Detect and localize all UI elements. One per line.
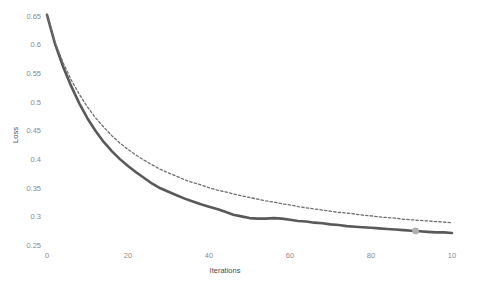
y-axis-tick-labels: 0.250.30.350.40.450.50.550.60.65 (26, 12, 41, 250)
y-tick-label: 0.65 (26, 12, 41, 21)
series-line-validation-loss (47, 15, 452, 223)
y-tick-label: 0.3 (31, 212, 41, 221)
x-tick-label: 0 (45, 251, 49, 260)
series-line-training-loss (47, 15, 452, 233)
selected-point-marker[interactable] (412, 228, 419, 235)
y-tick-label: 0.35 (26, 184, 41, 193)
x-tick-label: 40 (205, 251, 213, 260)
y-axis-title: Loss (11, 127, 20, 143)
x-tick-label: 10 (448, 251, 456, 260)
chart-container: 0.250.30.350.40.450.50.550.60.65 0204060… (0, 0, 478, 292)
data-marker-group (412, 228, 419, 235)
x-axis-tick-labels: 02040608010 (45, 251, 456, 260)
y-tick-label: 0.45 (26, 126, 41, 135)
y-tick-label: 0.6 (31, 40, 41, 49)
data-series-group (47, 15, 452, 233)
y-tick-label: 0.5 (31, 98, 41, 107)
x-tick-label: 80 (367, 251, 375, 260)
loss-curve-chart: 0.250.30.350.40.450.50.550.60.65 0204060… (0, 0, 478, 292)
y-tick-label: 0.4 (31, 155, 41, 164)
x-tick-label: 20 (124, 251, 132, 260)
y-tick-label: 0.55 (26, 69, 41, 78)
x-axis-title: Iterations (210, 266, 241, 275)
x-tick-label: 60 (286, 251, 294, 260)
y-tick-label: 0.25 (26, 241, 41, 250)
